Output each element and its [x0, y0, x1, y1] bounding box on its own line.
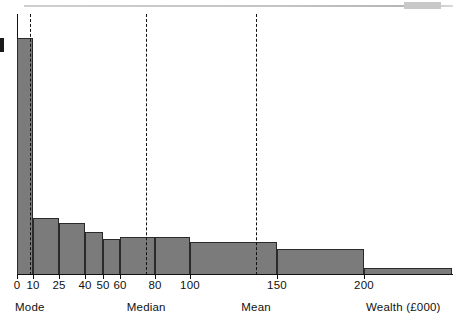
x-axis-title: Wealth (£000)	[366, 301, 441, 313]
reference-label-median: Median	[127, 301, 166, 313]
x-tick-label-80: 80	[148, 279, 161, 291]
bar-80-100	[155, 237, 190, 275]
x-tick-label-100: 100	[180, 279, 200, 291]
bar-10-25	[33, 218, 59, 275]
reference-label-mode: Mode	[15, 301, 45, 313]
reference-label-mean: Mean	[241, 301, 271, 313]
bar-40-50	[85, 232, 103, 275]
x-tick-label-60: 60	[113, 279, 126, 291]
histogram-chart: 0102540506080100150200 ModeMedianMean We…	[0, 0, 453, 325]
x-tick-label-150: 150	[267, 279, 287, 291]
bar-60-80	[120, 237, 155, 275]
bar-25-40	[59, 223, 85, 275]
x-axis-line	[17, 274, 453, 275]
x-tick-label-25: 25	[52, 279, 65, 291]
y-axis-label-cropped	[0, 38, 4, 52]
reference-line-mean	[256, 14, 257, 275]
x-tick-label-40: 40	[78, 279, 91, 291]
reference-line-mode	[30, 14, 31, 275]
bar-150-200	[277, 249, 364, 275]
bar-100-150	[190, 242, 277, 275]
x-tick-label-0: 0	[14, 279, 21, 291]
bar-50-60	[103, 239, 120, 275]
x-tick-label-200: 200	[354, 279, 374, 291]
x-tick-label-10: 10	[26, 279, 39, 291]
x-tick-label-50: 50	[96, 279, 109, 291]
reference-line-median	[146, 14, 147, 275]
